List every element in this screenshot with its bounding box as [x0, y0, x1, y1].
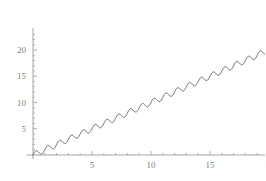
x-tick-label: 15	[206, 160, 216, 170]
plot-svg: 51015205101520	[0, 0, 265, 181]
chart-container: 51015205101520	[0, 0, 265, 181]
data-curve	[33, 29, 265, 155]
y-tick-label: 15	[17, 71, 27, 81]
x-tick-label: 10	[147, 160, 157, 170]
x-tick-label: 5	[90, 160, 95, 170]
data-curve-group	[33, 29, 265, 155]
x-tick-label: 20	[265, 160, 266, 170]
y-tick-label: 10	[17, 98, 27, 108]
y-tick-label: 5	[22, 124, 27, 134]
y-tick-label: 20	[17, 45, 27, 55]
tick-marks-group	[33, 34, 265, 155]
tick-labels-group: 51015205101520	[17, 45, 265, 170]
axes-group	[27, 28, 265, 159]
